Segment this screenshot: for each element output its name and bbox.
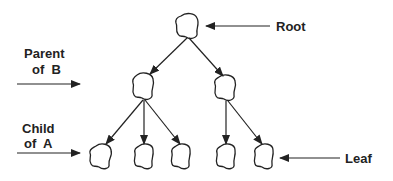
node-leaf-5 [254,144,273,169]
edge-left-leaf3 [145,100,180,144]
node-level1-left [133,73,154,99]
edge-right-leaf5 [228,101,262,144]
node-leaf-4 [216,144,235,169]
leaf-label: Leaf [345,151,372,166]
child-label-line1: Child [22,121,55,136]
tree-edges [106,38,262,144]
parent-label-line1: Parent [24,46,65,61]
node-leaf-3 [171,144,190,169]
edge-left-leaf1 [106,100,143,144]
node-root [176,14,198,39]
parent-label-line2: of B [32,62,61,77]
node-level1-right [215,75,236,100]
node-leaf-1 [90,144,112,169]
child-label-line2: of A [24,136,53,151]
edge-root-right [189,38,223,76]
node-leaf-2 [134,144,153,169]
root-label: Root [276,19,306,34]
tree-diagram: Root Parent of B Child of A Leaf [0,0,393,181]
edge-root-left [150,38,187,74]
